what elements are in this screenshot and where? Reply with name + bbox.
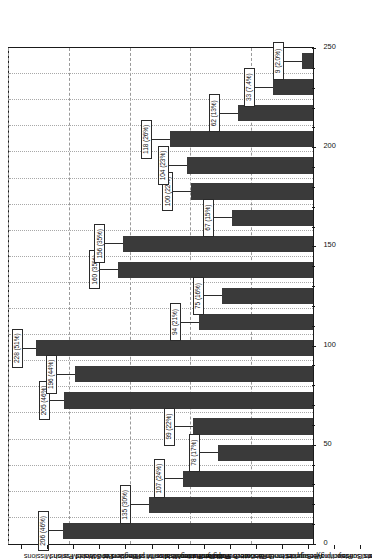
value-axis-tick bbox=[312, 48, 316, 49]
value-axis-tick bbox=[312, 445, 316, 446]
data-label: 228 (51%) bbox=[12, 329, 23, 368]
data-label: 118 (26%) bbox=[141, 120, 152, 159]
data-label: 62 (13%) bbox=[209, 94, 220, 132]
data-label-text: 67 (15%) bbox=[205, 205, 212, 231]
value-axis-minor-tick bbox=[312, 524, 315, 525]
data-label-leader-line bbox=[200, 452, 218, 453]
data-label-leader-line bbox=[173, 191, 191, 192]
data-label-text: 206 (46%) bbox=[40, 516, 47, 546]
value-axis-minor-tick bbox=[312, 187, 315, 188]
bar bbox=[36, 340, 313, 356]
bar bbox=[118, 262, 313, 278]
category-axis-tick bbox=[152, 546, 153, 550]
bar bbox=[75, 366, 313, 382]
value-axis-tick-label: 100 bbox=[324, 339, 336, 348]
value-axis-minor-tick bbox=[312, 68, 315, 69]
gridline-vertical bbox=[9, 412, 313, 413]
value-axis-minor-tick bbox=[312, 365, 315, 366]
category-axis-tick bbox=[73, 546, 74, 550]
value-axis-minor-tick bbox=[312, 465, 315, 466]
data-label-leader-line bbox=[100, 269, 118, 270]
category-axis-tick bbox=[125, 546, 126, 550]
bar bbox=[123, 236, 313, 252]
data-label: 196 (44%) bbox=[46, 355, 57, 394]
value-axis-minor-tick bbox=[312, 504, 315, 505]
bar bbox=[191, 184, 313, 200]
gridline-horizontal bbox=[8, 48, 9, 544]
category-axis-label: Retreats bbox=[364, 552, 372, 559]
data-label-text: 107 (24%) bbox=[156, 464, 163, 494]
data-label-text: 156 (35%) bbox=[97, 229, 104, 259]
bar bbox=[149, 497, 313, 513]
data-label-leader-line bbox=[169, 165, 187, 166]
data-label: 67 (15%) bbox=[203, 199, 214, 237]
data-label-leader-line bbox=[105, 243, 123, 244]
plot-area: 206 (46%)135 (30%)107 (24%)78 (17%)99 (2… bbox=[8, 47, 314, 545]
gridline-vertical bbox=[9, 256, 313, 257]
gridline-horizontal bbox=[69, 48, 70, 544]
data-label-text: 75 (16%) bbox=[195, 283, 202, 309]
data-label: 135 (30%) bbox=[120, 485, 131, 524]
data-label: 107 (24%) bbox=[154, 459, 165, 498]
value-axis-tick bbox=[312, 346, 316, 347]
data-label-text: 196 (44%) bbox=[48, 360, 55, 390]
gridline-vertical bbox=[9, 99, 313, 100]
gridline-vertical bbox=[9, 517, 313, 518]
data-label: 104 (23%) bbox=[158, 146, 169, 185]
category-axis-tick bbox=[99, 546, 100, 550]
bar bbox=[238, 105, 313, 121]
bar bbox=[170, 131, 313, 147]
bar bbox=[222, 288, 313, 304]
bar bbox=[64, 392, 313, 408]
bar bbox=[302, 53, 313, 69]
value-axis-tick-label: 200 bbox=[324, 141, 336, 150]
data-label-text: 118 (26%) bbox=[143, 125, 150, 154]
gridline-vertical bbox=[9, 334, 313, 335]
data-label-text: 78 (17%) bbox=[191, 440, 198, 466]
data-label-leader-line bbox=[50, 400, 64, 401]
gridline-horizontal bbox=[130, 48, 131, 544]
data-label-text: 104 (23%) bbox=[160, 151, 167, 181]
bar bbox=[183, 471, 313, 487]
data-label-text: 228 (51%) bbox=[14, 333, 21, 363]
value-axis-minor-tick bbox=[312, 266, 315, 267]
value-axis-tick bbox=[312, 147, 316, 148]
value-axis-tick-label: 250 bbox=[324, 42, 336, 51]
data-label-leader-line bbox=[220, 113, 238, 114]
bar bbox=[63, 523, 313, 539]
gridline-vertical bbox=[9, 282, 313, 283]
data-label-leader-line bbox=[214, 217, 232, 218]
bar-chart-figure: 206 (46%)135 (30%)107 (24%)78 (17%)99 (2… bbox=[0, 0, 372, 559]
data-label: 156 (35%) bbox=[94, 224, 105, 263]
value-axis-minor-tick bbox=[312, 108, 315, 109]
bar bbox=[187, 157, 313, 173]
gridline-vertical bbox=[9, 439, 313, 440]
data-label: 9 (2.0%) bbox=[273, 42, 284, 80]
value-axis-tick-label: 0 bbox=[324, 538, 328, 547]
gridline-vertical bbox=[9, 230, 313, 231]
data-label-text: 135 (30%) bbox=[122, 490, 129, 520]
category-axis-tick bbox=[334, 546, 335, 550]
data-label: 75 (16%) bbox=[193, 277, 204, 315]
value-axis-minor-tick bbox=[312, 286, 315, 287]
value-axis-minor-tick bbox=[312, 227, 315, 228]
data-label-leader-line bbox=[181, 322, 199, 323]
bar bbox=[218, 445, 313, 461]
rotated-figure-wrapper: 206 (46%)135 (30%)107 (24%)78 (17%)99 (2… bbox=[0, 0, 372, 559]
gridline-vertical bbox=[9, 125, 313, 126]
bar bbox=[273, 79, 313, 95]
bar bbox=[232, 210, 313, 226]
data-label-leader-line bbox=[255, 87, 273, 88]
category-axis-tick bbox=[282, 546, 283, 550]
data-label: 33 (7.4%) bbox=[244, 68, 255, 107]
value-axis-tick-label: 50 bbox=[324, 438, 332, 447]
data-label-leader-line bbox=[165, 478, 183, 479]
data-label-text: 9 (2.0%) bbox=[275, 49, 282, 73]
data-label-text: 62 (13%) bbox=[211, 100, 218, 126]
value-axis-minor-tick bbox=[312, 385, 315, 386]
category-axis-tick bbox=[230, 546, 231, 550]
data-label-text: 94 (21%) bbox=[172, 309, 179, 335]
data-label-leader-line bbox=[49, 530, 63, 531]
data-label: 99 (22%) bbox=[164, 408, 175, 446]
data-label-leader-line bbox=[152, 139, 170, 140]
